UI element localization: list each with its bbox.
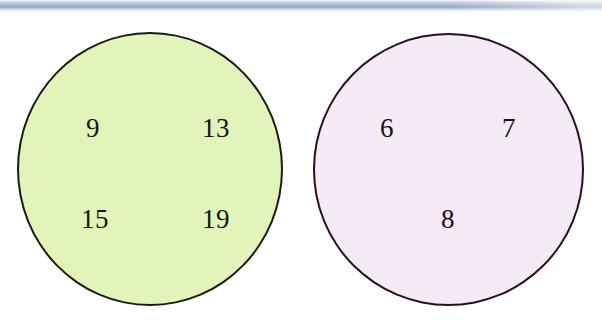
set-green-item-4: 19: [202, 206, 230, 233]
set-green-item-1: 9: [86, 115, 100, 142]
set-green-item-3: 15: [81, 206, 109, 233]
set-pink-item-3: 8: [441, 206, 455, 233]
set-circle-green: [17, 32, 283, 306]
set-pink-item-2: 7: [502, 115, 516, 142]
set-pink-item-1: 6: [380, 115, 394, 142]
scan-artifact-blur: [0, 0, 602, 12]
set-circle-pink: [313, 33, 584, 306]
diagram-canvas: 9 13 15 19 6 7 8: [0, 0, 602, 332]
set-green-item-2: 13: [202, 115, 230, 142]
